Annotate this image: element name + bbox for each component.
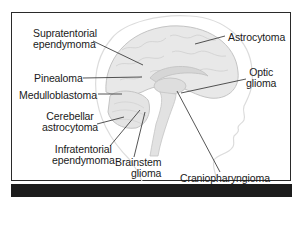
label-line: astrocytoma <box>42 122 98 133</box>
label-line: ependymoma <box>33 39 97 50</box>
label-pinealoma: Pinealoma <box>34 73 83 84</box>
label-craniopharyngioma: Craniopharyngioma <box>180 173 270 184</box>
label-line: glioma <box>115 168 161 179</box>
label-infratentorial-ependymoma: Infratentorial ependymoma <box>52 144 115 166</box>
label-optic-glioma: Optic glioma <box>246 67 276 89</box>
brainstem <box>150 92 176 156</box>
label-supratentorial-ependymoma: Supratentorial ependymoma <box>33 28 97 50</box>
label-brainstem-glioma: Brainstem glioma <box>115 157 161 179</box>
label-cerebellar-astrocytoma: Cerebellar astrocytoma <box>42 111 98 133</box>
label-line: glioma <box>246 78 276 89</box>
label-line: ependymoma <box>52 155 115 166</box>
bottom-bar <box>11 184 292 197</box>
thalamus <box>154 78 186 94</box>
label-medulloblastoma: Medulloblastoma <box>19 90 97 101</box>
label-astrocytoma: Astrocytoma <box>228 32 285 43</box>
